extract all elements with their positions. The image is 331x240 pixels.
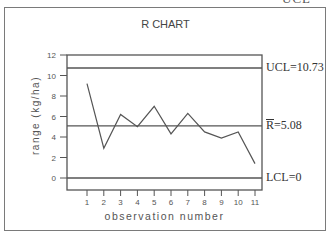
range-series-line — [87, 84, 255, 164]
x-tick-label: 3 — [118, 198, 123, 207]
axes: 0246810121234567891011 — [47, 51, 262, 207]
y-tick-label: 2 — [52, 154, 57, 163]
x-tick-label: 1 — [85, 198, 90, 207]
x-tick-label: 7 — [186, 198, 191, 207]
y-tick-label: 10 — [47, 72, 56, 81]
x-tick-label: 4 — [135, 198, 140, 207]
rbar-label: R=5.08 — [266, 118, 302, 133]
x-tick-label: 6 — [169, 198, 174, 207]
y-tick-label: 0 — [52, 174, 57, 183]
lcl-label: LCL=0 — [266, 170, 301, 185]
y-tick-label: 4 — [52, 133, 57, 142]
x-tick-label: 8 — [202, 198, 207, 207]
y-tick-label: 8 — [52, 92, 57, 101]
rbar-value: =5.08 — [274, 118, 302, 132]
x-tick-label: 5 — [152, 198, 157, 207]
x-tick-label: 2 — [102, 198, 107, 207]
y-tick-label: 12 — [47, 51, 56, 60]
x-tick-label: 10 — [234, 198, 243, 207]
rbar-symbol: R — [266, 118, 274, 133]
ucl-label: UCL=10.73 — [266, 60, 324, 75]
x-tick-label: 9 — [219, 198, 224, 207]
x-tick-label: 11 — [251, 198, 260, 207]
y-tick-label: 6 — [52, 113, 57, 122]
